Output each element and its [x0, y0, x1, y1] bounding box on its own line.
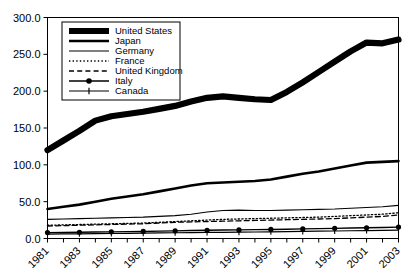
y-tick-label: 200.0	[13, 85, 41, 97]
series-line-japan	[48, 161, 399, 209]
x-tick-label: 1993	[217, 244, 243, 270]
legend-marker	[86, 78, 92, 84]
x-tick-label: 1989	[153, 244, 179, 270]
chart-canvas: 0.050.0100.0150.0200.0250.0300.0 1981198…	[0, 0, 420, 275]
series-line-france	[48, 213, 399, 226]
series-line-germany	[48, 205, 399, 219]
y-tick-label: 250.0	[13, 48, 41, 60]
x-tick-label: 1987	[121, 244, 147, 270]
line-chart: 0.050.0100.0150.0200.0250.0300.0 1981198…	[0, 0, 420, 275]
x-tick-label: 1991	[185, 244, 211, 270]
legend-label-canada: Canada	[115, 85, 149, 96]
x-axis-ticks: 1981198319851987198919911993199519971999…	[25, 239, 402, 271]
x-tick-label: 1983	[57, 244, 83, 270]
y-axis-ticks: 0.050.0100.0150.0200.0250.0300.0	[13, 12, 48, 245]
y-tick-label: 300.0	[13, 12, 41, 24]
series-line-united-kingdom	[48, 215, 399, 226]
x-tick-label: 1995	[248, 244, 274, 270]
x-tick-label: 2003	[376, 244, 402, 270]
chart-legend: United StatesJapanGermanyFranceUnited Ki…	[62, 22, 183, 100]
x-tick-label: 1999	[312, 244, 338, 270]
y-tick-label: 50.0	[19, 196, 40, 208]
x-tick-label: 2001	[344, 244, 370, 270]
x-tick-label: 1997	[280, 244, 306, 270]
y-tick-label: 100.0	[13, 159, 41, 171]
y-tick-label: 150.0	[13, 122, 41, 134]
y-tick-label: 0.0	[25, 233, 40, 245]
x-tick-label: 1985	[89, 244, 115, 270]
x-tick-label: 1981	[25, 244, 51, 270]
